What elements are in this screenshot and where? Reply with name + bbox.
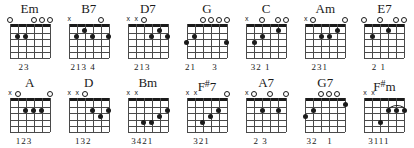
open-string-icon bbox=[31, 17, 37, 23]
fret-line bbox=[305, 113, 345, 114]
string-line bbox=[227, 98, 228, 132]
string-line bbox=[69, 98, 70, 132]
open-string-icon bbox=[216, 17, 222, 23]
string-line bbox=[211, 24, 212, 58]
chord-name: B7 bbox=[81, 1, 96, 16]
fret-line bbox=[69, 39, 109, 40]
fret-line bbox=[128, 52, 168, 53]
open-string-icon bbox=[361, 17, 367, 23]
fret-line bbox=[364, 132, 404, 133]
finger-dot bbox=[184, 40, 189, 45]
open-string-icon bbox=[401, 17, 407, 23]
string-line bbox=[18, 24, 19, 58]
chord-diagram-a[interactable]: Ax123 bbox=[0, 74, 59, 148]
string-line bbox=[388, 98, 389, 132]
string-line bbox=[313, 98, 314, 132]
fretboard-diagram: xx bbox=[124, 90, 172, 134]
chord-name: A bbox=[25, 75, 34, 90]
string-line bbox=[380, 24, 381, 58]
open-string-icon bbox=[82, 91, 88, 97]
muted-string-icon: x bbox=[133, 90, 140, 97]
fretboard-diagram: xx bbox=[360, 90, 408, 134]
chord-name: Bm bbox=[138, 75, 157, 90]
fretboard-diagram bbox=[360, 16, 408, 60]
open-string-icon bbox=[141, 17, 147, 23]
string-line bbox=[50, 24, 51, 58]
string-line bbox=[101, 24, 102, 58]
finger-dot bbox=[303, 114, 308, 119]
fret-line bbox=[69, 120, 109, 121]
chord-diagram-fsharpm[interactable]: F#mxx3111 bbox=[355, 74, 414, 148]
fretboard-diagram: x bbox=[301, 16, 349, 60]
fret-line bbox=[246, 33, 286, 34]
nut bbox=[305, 24, 345, 27]
chord-diagram-d[interactable]: Dxx132 bbox=[59, 74, 118, 148]
finger-dot bbox=[98, 114, 103, 119]
open-string-icon bbox=[326, 91, 332, 97]
fret-line bbox=[69, 113, 109, 114]
chord-name: D7 bbox=[140, 1, 156, 16]
chord-diagram-em[interactable]: Em23 bbox=[0, 0, 59, 74]
finger-dot bbox=[149, 120, 154, 125]
finger-dot bbox=[106, 34, 111, 39]
fret-line bbox=[10, 39, 50, 40]
chord-diagram-g7[interactable]: G732 1 bbox=[296, 74, 355, 148]
open-string-icon bbox=[208, 17, 214, 23]
fret-line bbox=[305, 120, 345, 121]
fret-grid bbox=[364, 24, 404, 58]
open-string-icon bbox=[342, 17, 348, 23]
fret-grid bbox=[10, 24, 50, 58]
fret-line bbox=[305, 132, 345, 133]
chord-diagram-c[interactable]: Cx32 1 bbox=[237, 0, 296, 74]
string-line bbox=[42, 98, 43, 132]
fret-line bbox=[246, 46, 286, 47]
chord-diagram-am[interactable]: Amx231 bbox=[296, 0, 355, 74]
chord-diagram-g[interactable]: G21 3 bbox=[177, 0, 236, 74]
chord-name: D bbox=[84, 75, 93, 90]
finger-numbers: 21 3 bbox=[177, 61, 225, 73]
fret-grid bbox=[187, 24, 227, 58]
fretboard-diagram bbox=[183, 16, 231, 60]
open-string-icon bbox=[393, 17, 399, 23]
open-string-icon bbox=[267, 91, 273, 97]
fret-line bbox=[187, 58, 227, 59]
fret-line bbox=[10, 52, 50, 53]
finger-dot bbox=[335, 28, 340, 33]
fret-grid bbox=[69, 24, 109, 58]
fret-grid bbox=[128, 98, 168, 132]
string-line bbox=[262, 24, 263, 58]
string-line bbox=[372, 98, 373, 132]
chord-diagram-b7[interactable]: B7x213 4 bbox=[59, 0, 118, 74]
fret-line bbox=[246, 52, 286, 53]
string-line bbox=[10, 98, 11, 132]
string-line bbox=[203, 98, 204, 132]
nut bbox=[187, 98, 227, 101]
string-markers: xx bbox=[364, 90, 404, 97]
chord-diagram-a7[interactable]: A7x2 3 bbox=[237, 74, 296, 148]
fret-grid bbox=[246, 24, 286, 58]
finger-dot bbox=[23, 34, 28, 39]
finger-numbers: 321 bbox=[177, 135, 225, 147]
string-line bbox=[128, 24, 129, 58]
string-line bbox=[219, 98, 220, 132]
fret-line bbox=[128, 33, 168, 34]
fret-line bbox=[10, 120, 50, 121]
fret-line bbox=[305, 39, 345, 40]
nut bbox=[246, 98, 286, 101]
finger-dot bbox=[157, 28, 162, 33]
string-line bbox=[18, 98, 19, 132]
finger-dot bbox=[402, 108, 407, 113]
string-line bbox=[69, 24, 70, 58]
finger-dot bbox=[276, 108, 281, 113]
chord-diagram-e7[interactable]: E72 1 bbox=[355, 0, 414, 74]
string-markers bbox=[10, 16, 50, 23]
chord-diagram-bm[interactable]: Bmxx3421 bbox=[118, 74, 177, 148]
string-line bbox=[262, 98, 263, 132]
fret-grid bbox=[128, 24, 168, 58]
sharp-symbol: # bbox=[380, 78, 385, 89]
string-line bbox=[321, 24, 322, 58]
fret-grid bbox=[10, 98, 50, 132]
muted-string-icon: x bbox=[361, 90, 368, 97]
chord-diagram-fsharp7[interactable]: F#7xx321 bbox=[177, 74, 236, 148]
chord-diagram-d7[interactable]: D7xx213 bbox=[118, 0, 177, 74]
